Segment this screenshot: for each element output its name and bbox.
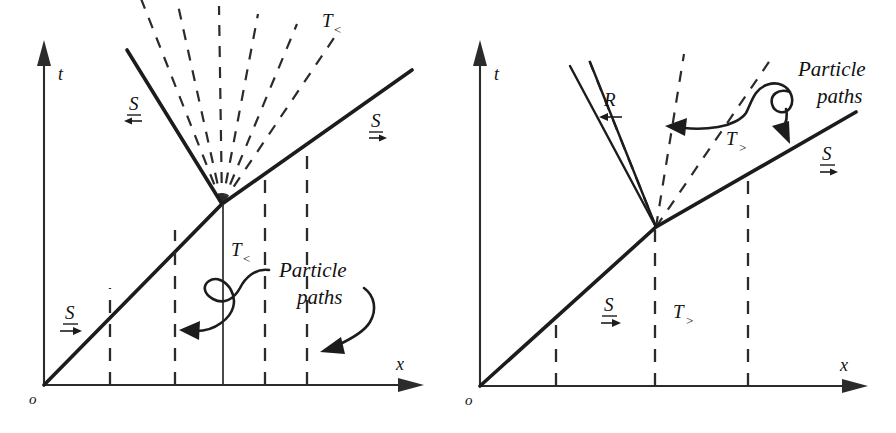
left-panel: t x o S xyxy=(0,0,448,433)
right-x-axis xyxy=(480,379,868,393)
left-x-axis xyxy=(44,378,424,392)
left-label-s-left-text: S xyxy=(129,93,139,114)
right-label-r-text: R xyxy=(603,89,616,110)
right-t-axis-label: t xyxy=(494,64,500,84)
right-label-s-lower-text: S xyxy=(604,294,614,315)
left-label-s-left: S xyxy=(124,93,142,125)
right-origin-label: o xyxy=(465,392,473,408)
right-panel: t x o R S xyxy=(448,0,896,433)
left-t-axis-label: t xyxy=(58,64,64,84)
right-label-t-greater-lower-text: T xyxy=(673,301,685,322)
left-particle-paths-pointer-squiggle xyxy=(179,270,269,340)
right-label-s-upper: S xyxy=(820,143,838,176)
left-label-t-less-lower-sub: < xyxy=(243,251,250,266)
right-particle-paths-line2: paths xyxy=(815,84,863,108)
left-label-t-less-upper: T < xyxy=(322,10,341,37)
left-label-t-less-lower-text: T xyxy=(231,239,243,260)
right-label-t-greater-lower: T > xyxy=(673,301,693,328)
left-shock-s-left-going xyxy=(127,50,222,204)
left-particle-paths-line1: Particle xyxy=(278,258,347,282)
right-label-t-greater-lower-sub: > xyxy=(686,313,693,328)
right-rarefaction-r xyxy=(570,62,656,227)
left-x-axis-label: x xyxy=(395,354,404,374)
left-origin-label: o xyxy=(29,391,37,407)
right-t-axis xyxy=(473,40,487,386)
left-rarefaction-fan xyxy=(136,0,334,204)
left-label-s-right-upper: S xyxy=(369,110,387,142)
left-label-s-right-lower-text: S xyxy=(65,302,75,323)
right-particle-path-lines xyxy=(556,170,748,386)
left-label-s-right-upper-text: S xyxy=(371,110,381,131)
right-shock-s xyxy=(480,112,856,386)
left-t-axis xyxy=(37,40,51,385)
left-label-t-less-upper-sub: < xyxy=(334,22,341,37)
left-label-t-less-upper-text: T xyxy=(322,10,334,31)
spacetime-wave-diagram-figure: t x o S xyxy=(0,0,896,433)
right-label-s-upper-text: S xyxy=(822,143,832,164)
right-particle-paths-line1: Particle xyxy=(797,57,866,81)
left-particle-paths-line2: paths xyxy=(295,285,343,309)
right-label-t-greater-upper: T > xyxy=(726,128,746,155)
left-shock-s-right-going xyxy=(44,70,412,385)
right-label-s-lower: S xyxy=(601,294,621,327)
left-label-t-less-lower: T < xyxy=(231,239,250,266)
right-x-axis-label: x xyxy=(839,355,848,375)
left-label-s-right-lower: S xyxy=(60,302,82,335)
right-label-t-greater-upper-sub: > xyxy=(739,140,746,155)
right-label-t-greater-upper-text: T xyxy=(726,128,738,149)
